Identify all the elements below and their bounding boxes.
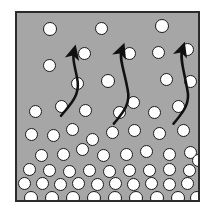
particle <box>78 47 91 60</box>
particle <box>127 96 140 109</box>
particle <box>140 145 153 158</box>
particle <box>71 77 84 90</box>
particle <box>43 22 57 36</box>
particle <box>47 129 60 142</box>
particle <box>35 149 48 162</box>
particle <box>152 46 165 59</box>
particle <box>63 165 76 178</box>
particle <box>36 177 49 190</box>
particle <box>148 106 161 119</box>
particle <box>101 74 115 88</box>
particle <box>113 106 126 119</box>
particle <box>160 73 173 86</box>
particle <box>29 105 42 118</box>
particle <box>55 100 68 113</box>
particle <box>127 178 140 191</box>
particle <box>163 148 176 161</box>
particle <box>45 191 59 202</box>
bed-vessel-frame <box>15 11 200 202</box>
particle <box>87 191 101 202</box>
particle <box>120 148 133 161</box>
particle <box>91 178 104 191</box>
particle <box>128 124 141 137</box>
particle <box>150 191 164 202</box>
particle <box>181 43 194 56</box>
particle <box>109 177 122 190</box>
particle <box>97 149 110 162</box>
particle <box>54 178 67 191</box>
particle <box>184 75 197 88</box>
particle <box>103 165 116 178</box>
particle <box>25 128 38 141</box>
particle <box>129 191 143 202</box>
particle <box>23 163 36 176</box>
particle <box>79 104 92 117</box>
particle <box>145 177 158 190</box>
particle <box>163 163 176 176</box>
particle <box>24 191 38 202</box>
particle <box>43 164 56 177</box>
particle <box>172 100 185 113</box>
particle <box>83 164 96 177</box>
particle <box>153 127 166 140</box>
particle <box>163 178 176 191</box>
particle <box>123 164 136 177</box>
particle <box>66 123 79 136</box>
particle <box>76 143 89 156</box>
fluidized-bed-figure <box>0 0 213 214</box>
particle <box>72 177 85 190</box>
particle <box>95 22 108 35</box>
particle <box>190 191 200 202</box>
particle <box>171 191 185 202</box>
particle <box>177 124 190 137</box>
particle <box>181 177 194 190</box>
particle <box>66 191 80 202</box>
particle <box>106 126 119 139</box>
particle <box>155 19 169 33</box>
particle <box>43 59 56 72</box>
particle <box>57 148 70 161</box>
particle <box>86 133 99 146</box>
particle <box>143 164 156 177</box>
particle <box>123 47 136 60</box>
particle <box>108 191 122 202</box>
particle <box>183 164 196 177</box>
particle <box>18 177 31 190</box>
